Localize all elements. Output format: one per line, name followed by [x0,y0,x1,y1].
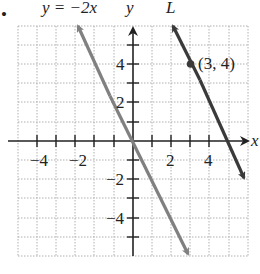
line-L-arrow-up [173,26,200,80]
y-tick-label-4: 4 [116,55,125,74]
label-line1-equation: y = −2x [40,0,97,17]
bullet: • [1,5,7,24]
coordinate-plane: • y = −2x y L x (3, 4) −4 −2 2 4 4 2 −2 … [0,0,260,274]
y-tick-label-2: 2 [116,93,125,112]
x-tick-label-2: 2 [166,151,175,170]
y-tick-label-neg2: −2 [106,170,124,189]
y-tick-label-neg4: −4 [106,209,125,228]
label-x-axis: x [250,131,259,150]
x-tick-label-neg4: −4 [30,151,49,170]
point-3-4 [187,60,195,68]
x-tick-label-4: 4 [204,151,213,170]
label-line-L: L [165,0,175,17]
x-tick-label-neg2: −2 [69,151,87,170]
label-y-axis: y [124,0,134,17]
graph-figure: • y = −2x y L x (3, 4) −4 −2 2 4 4 2 −2 … [0,0,260,274]
label-point: (3, 4) [198,54,235,73]
